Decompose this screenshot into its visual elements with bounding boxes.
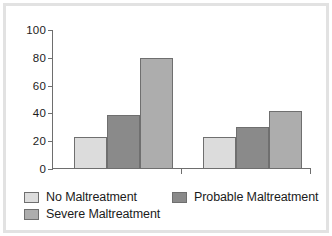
legend-swatch-icon (24, 209, 39, 220)
y-axis-tick-group: 020406080100 (52, 30, 53, 169)
legend-swatch-icon (172, 192, 187, 203)
y-axis-tick-label: 80 (33, 52, 46, 64)
y-axis-tick (48, 141, 53, 142)
chart-bar (140, 58, 173, 169)
plot-area: 020406080100 (52, 30, 311, 169)
chart-bar (107, 115, 140, 169)
figure-frame: 020406080100 No Maltreatment Probable Ma… (3, 3, 329, 233)
y-axis-tick-label: 60 (33, 80, 46, 92)
legend-item-label: No Maltreatment (46, 190, 137, 204)
legend-item-probable-maltreatment[interactable]: Probable Maltreatment (172, 190, 318, 204)
y-axis-tick (48, 113, 53, 114)
x-axis-tick-group-separator (181, 169, 182, 174)
x-axis-tick-end (310, 169, 311, 174)
legend-item-no-maltreatment[interactable]: No Maltreatment (24, 190, 172, 204)
chart-screenshot: 020406080100 No Maltreatment Probable Ma… (0, 0, 332, 236)
legend-swatch-icon (24, 192, 39, 203)
legend-row-2: Severe Maltreatment (24, 207, 320, 224)
y-axis-tick (48, 30, 53, 31)
y-axis-tick-label: 20 (33, 135, 46, 147)
y-axis-tick-label: 40 (33, 107, 46, 119)
figure-panel: 020406080100 No Maltreatment Probable Ma… (6, 6, 326, 230)
y-axis-tick (48, 58, 53, 59)
legend-item-label: Probable Maltreatment (194, 190, 318, 204)
chart-legend: No Maltreatment Probable Maltreatment Se… (24, 190, 320, 224)
chart-bar (236, 127, 269, 169)
y-axis-tick (48, 169, 53, 170)
y-axis-tick (48, 86, 53, 87)
chart-bar (269, 111, 302, 169)
chart-bar (74, 137, 107, 169)
legend-item-severe-maltreatment[interactable]: Severe Maltreatment (24, 207, 172, 221)
legend-item-label: Severe Maltreatment (46, 207, 160, 221)
legend-row-1: No Maltreatment Probable Maltreatment (24, 190, 320, 207)
y-axis-tick-label: 0 (39, 163, 46, 175)
chart-bar (203, 137, 236, 169)
y-axis-tick-label: 100 (26, 24, 46, 36)
